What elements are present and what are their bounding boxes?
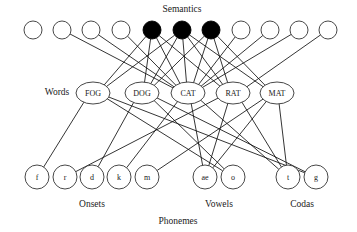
edge-word-to-phoneme <box>241 101 281 167</box>
semantic-node-inactive[interactable] <box>319 21 337 39</box>
word-node-label: FOG <box>85 89 101 98</box>
phoneme-node-label: k <box>117 173 121 182</box>
semantic-node-active[interactable] <box>173 21 191 39</box>
edge-word-to-phoneme <box>127 101 179 168</box>
phoneme-node-label: r <box>64 173 67 182</box>
phoneme-node-label: o <box>231 173 235 182</box>
edge-word-to-phoneme <box>76 97 220 171</box>
edge-word-to-phoneme <box>107 96 304 172</box>
edge-word-to-phoneme <box>191 103 203 166</box>
word-node-label: DOG <box>133 89 151 98</box>
edge-semantics-to-word <box>200 35 263 86</box>
phoneme-node-label: g <box>314 173 318 182</box>
word-node-label: CAT <box>180 89 195 98</box>
word-node-label: MAT <box>269 89 286 98</box>
phoneme-node-label: f <box>36 173 39 182</box>
edge-semantics-to-word <box>246 35 321 88</box>
phoneme-node-label: d <box>90 173 94 182</box>
phoneme-node-label: ae <box>201 173 209 182</box>
words-layer-label: Words <box>45 87 70 97</box>
semantic-node-inactive[interactable] <box>232 21 250 39</box>
edge-semantics-to-word <box>183 39 187 83</box>
phoneme-group-label-codas: Codas <box>290 199 314 209</box>
phoneme-group-label-vowels: Vowels <box>205 199 233 209</box>
word-node-label: RAT <box>225 89 240 98</box>
phoneme-node-label: m <box>144 173 151 182</box>
phonemes-layer-label: Phonemes <box>158 216 197 226</box>
edge-semantics-to-word <box>150 38 177 85</box>
semantic-node-inactive[interactable] <box>53 21 71 39</box>
edge-semantics-to-word <box>153 36 204 86</box>
phoneme-group-label-onsets: Onsets <box>79 199 105 209</box>
edge-semantics-to-word <box>198 37 235 86</box>
edge-word-to-phoneme <box>279 103 286 165</box>
semantic-node-inactive[interactable] <box>112 21 130 39</box>
edge-word-to-phoneme <box>200 99 279 169</box>
semantic-node-inactive[interactable] <box>24 21 42 39</box>
semantic-node-active[interactable] <box>143 21 161 39</box>
edge-word-to-phoneme <box>213 101 267 168</box>
network-svg: FOGDOGCATRATMATfrdkmaeotgSemanticsWordsO… <box>0 0 357 232</box>
semantic-node-inactive[interactable] <box>82 21 100 39</box>
edge-semantics-to-word <box>144 39 150 83</box>
semantic-node-inactive[interactable] <box>290 21 308 39</box>
semantics-layer-label: Semantics <box>162 4 201 14</box>
edge-word-to-phoneme <box>44 101 85 167</box>
semantic-node-inactive[interactable] <box>261 21 279 39</box>
semantic-node-active[interactable] <box>202 21 220 39</box>
network-diagram: FOGDOGCATRATMATfrdkmaeotgSemanticsWordsO… <box>0 0 357 232</box>
